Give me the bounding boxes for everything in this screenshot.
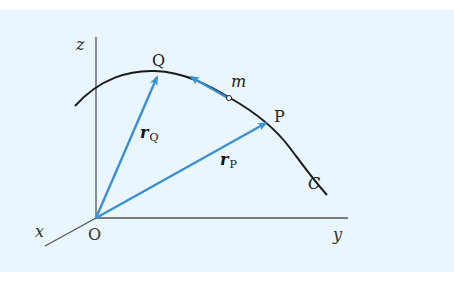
curve-c-label: C xyxy=(308,174,320,193)
vector-r-q-label: rQ xyxy=(140,123,158,144)
vector-r-q xyxy=(96,77,157,218)
z-axis-label: z xyxy=(75,35,85,54)
point-p-label: P xyxy=(274,107,285,126)
particle-m-label: m xyxy=(231,72,246,91)
origin-label: O xyxy=(88,225,101,244)
vector-r-p xyxy=(96,123,266,218)
point-q-label: Q xyxy=(152,51,165,70)
particle-m-marker xyxy=(227,96,232,101)
y-axis-label: y xyxy=(332,225,343,244)
x-axis-label: x xyxy=(35,222,44,241)
velocity-arrow xyxy=(191,77,228,98)
vector-r-p-label: rP xyxy=(220,150,237,171)
position-vector-diagram: z y x O Q P m C rQ rP xyxy=(0,0,454,281)
